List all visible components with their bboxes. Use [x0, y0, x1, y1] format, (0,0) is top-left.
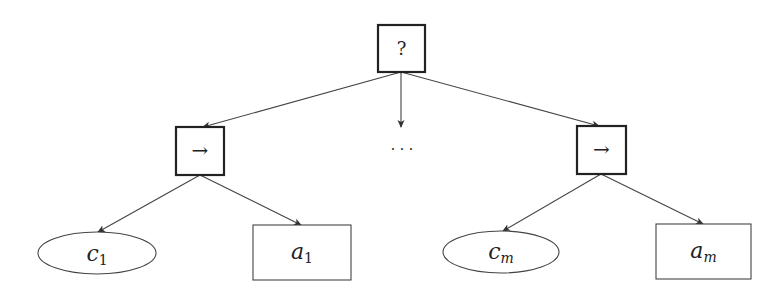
sequence-node-1: →: [176, 127, 224, 175]
condition-node-cm: cm: [443, 231, 559, 273]
condition-node-c1: c1: [38, 232, 156, 274]
action-node-am: am: [656, 224, 751, 279]
action-node-a1: a1: [253, 225, 351, 280]
edge-seq-1-to-c1: [98, 175, 200, 232]
edge-seq-m-to-am: [601, 174, 703, 224]
diagram-svg: ? → → · · · c1 a1 cm: [0, 0, 784, 295]
behavior-tree-diagram: ? → → · · · c1 a1 cm: [0, 0, 784, 295]
edge-seq-m-to-cm: [503, 174, 601, 231]
sequence-arrow-icon: →: [593, 137, 610, 161]
sequence-node-m: →: [577, 126, 626, 174]
ellipsis: · · ·: [391, 141, 413, 157]
root-fallback-node: ?: [378, 25, 425, 72]
edge-root-to-seq-m: [401, 72, 599, 126]
sequence-arrow-icon: →: [192, 138, 209, 162]
root-label: ?: [397, 38, 407, 59]
edge-seq-1-to-a1: [200, 175, 301, 225]
edge-root-to-seq-1: [203, 72, 401, 127]
